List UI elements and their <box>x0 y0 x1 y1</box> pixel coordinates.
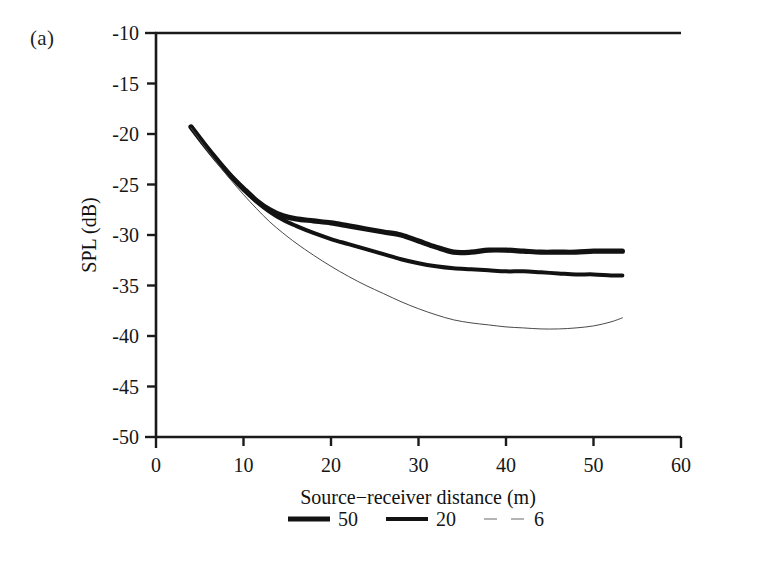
y-tick-label: -15 <box>112 73 139 95</box>
y-tick-label: -50 <box>112 426 139 448</box>
x-tick-label: 40 <box>496 454 516 476</box>
y-tick-label: -30 <box>112 224 139 246</box>
series-line-50 <box>191 127 622 253</box>
y-tick-label: -45 <box>112 376 139 398</box>
y-tick-label: -10 <box>112 22 139 44</box>
x-tick-label: 0 <box>151 454 161 476</box>
y-tick-label: -40 <box>112 325 139 347</box>
x-axis-title: Source−receiver distance (m) <box>300 486 536 509</box>
x-tick-label: 60 <box>671 454 691 476</box>
legend-label-20: 20 <box>436 508 456 530</box>
data-series-layer <box>191 127 622 329</box>
y-tick-label: -20 <box>112 123 139 145</box>
y-axis-tick-labels: -10 -15 -20 -25 -30 -35 -40 -45 -50 <box>112 22 139 448</box>
x-axis-ticks <box>156 437 681 448</box>
series-line-6 <box>191 128 622 329</box>
x-axis-tick-labels: 0 10 20 30 40 50 60 <box>151 454 691 476</box>
legend-label-6: 6 <box>534 508 544 530</box>
y-tick-label: -25 <box>112 174 139 196</box>
chart-canvas: -10 -15 -20 -25 -30 -35 -40 -45 -50 0 10… <box>0 0 758 562</box>
axis-frame <box>155 33 681 437</box>
x-tick-label: 20 <box>321 454 341 476</box>
chart-legend: 50206 <box>288 508 544 530</box>
y-tick-label: -35 <box>112 275 139 297</box>
figure-container: (a) -10 -15 -20 -25 -30 -35 <box>0 0 758 562</box>
x-tick-label: 30 <box>409 454 429 476</box>
y-axis-title: SPL (dB) <box>78 197 101 272</box>
x-tick-label: 50 <box>584 454 604 476</box>
y-axis-ticks <box>145 33 156 437</box>
legend-label-50: 50 <box>338 508 358 530</box>
x-tick-label: 10 <box>234 454 254 476</box>
